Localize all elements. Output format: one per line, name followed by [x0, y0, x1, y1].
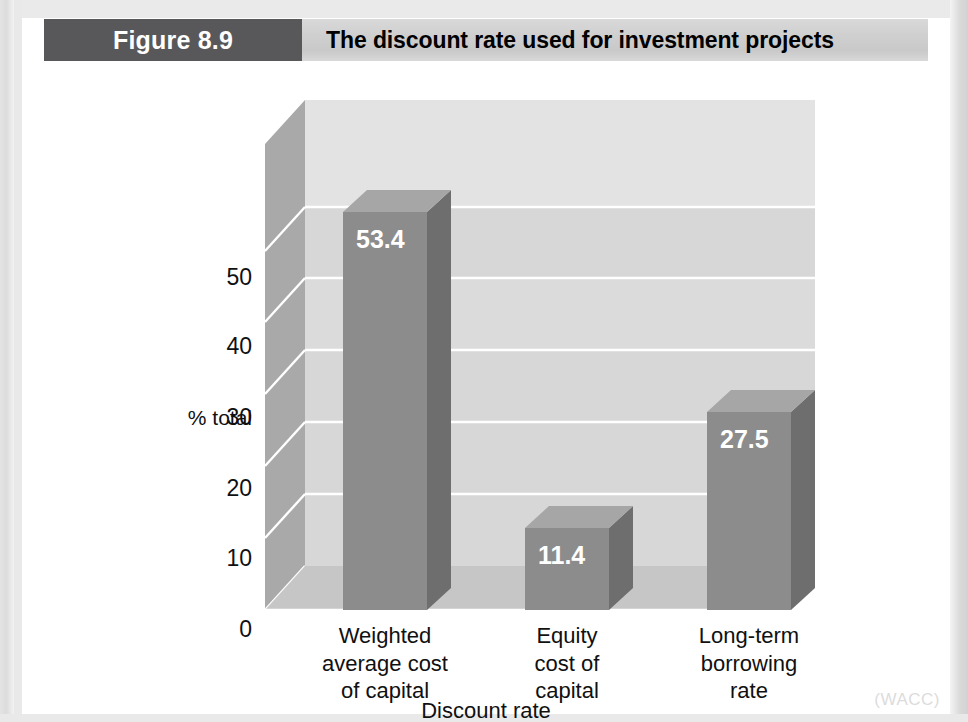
page-right-edge [950, 0, 968, 714]
bar-long-term-borrowing-rate[interactable]: 27.5 [707, 390, 815, 610]
bar-value-label-3: 27.5 [720, 425, 769, 453]
bar-equity-cost-of-capital[interactable]: 11.4 [525, 506, 633, 610]
bar-value-label-2: 11.4 [538, 541, 585, 569]
chart-area: 50 40 30 20 10 0 % total [22, 66, 950, 706]
bar-chart-3d: 53.4 11.4 27.5 [22, 66, 950, 706]
page-left-edge [0, 0, 14, 714]
x-category-line: Long-term [634, 622, 864, 650]
figure-title: The discount rate used for investment pr… [326, 19, 834, 61]
bar-value-label-1: 53.4 [356, 225, 405, 253]
panel-top-band [22, 0, 950, 18]
figure-header: Figure 8.9 The discount rate used for in… [44, 19, 928, 61]
bar-weighted-average-cost-of-capital[interactable]: 53.4 [343, 190, 451, 610]
scan-bleed-text: (WACC) [700, 690, 940, 710]
figure-number-label: Figure 8.9 [113, 26, 233, 55]
figure-number-block: Figure 8.9 [44, 19, 302, 61]
left-wall [265, 100, 305, 610]
x-category-line: borrowing [634, 650, 864, 678]
